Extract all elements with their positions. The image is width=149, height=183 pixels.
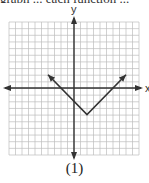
x-axis xyxy=(3,85,143,91)
coordinate-graph: y x xyxy=(0,0,149,183)
y-axis-label: y xyxy=(71,3,77,15)
x-axis-label: x xyxy=(145,82,149,94)
x-axis-left-arrow-icon xyxy=(3,85,11,91)
y-axis-up-arrow-icon xyxy=(71,16,77,24)
y-axis-down-arrow-icon xyxy=(71,152,77,160)
figure-label: (1) xyxy=(0,160,149,177)
